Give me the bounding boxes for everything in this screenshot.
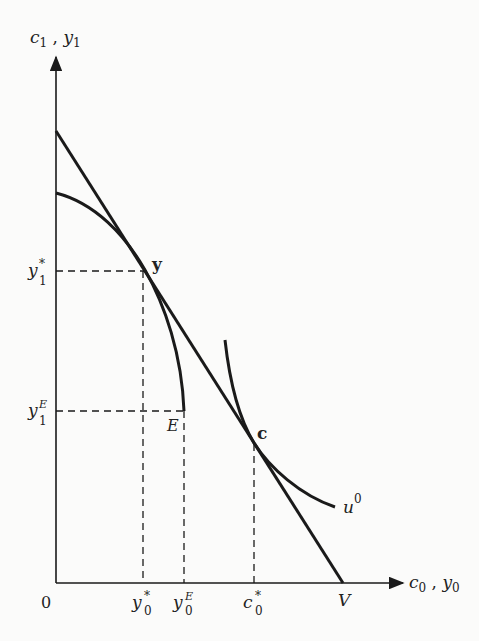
svg-text:E: E [184, 590, 193, 603]
svg-text:*: * [39, 257, 45, 271]
x-tick-c0-star: c * 0 [243, 589, 263, 618]
svg-text:1: 1 [39, 274, 47, 288]
svg-text:y: y [172, 592, 183, 612]
x-axis-label: c0 , y0 [409, 572, 460, 595]
x-tick-y0-star: y * 0 [131, 589, 152, 618]
svg-text:y: y [131, 592, 142, 612]
origin-label: 0 [41, 593, 51, 612]
svg-text:0: 0 [255, 604, 263, 618]
point-y-label: y [151, 254, 163, 274]
svg-text:u: u [343, 497, 354, 517]
point-E-label: E [166, 416, 179, 435]
svg-text:y: y [27, 260, 38, 280]
point-c-label: c [257, 423, 267, 443]
fisher-separation-diagram: c1 , y1 c0 , y0 0 y * 1 y E 1 y * 0 y E … [0, 0, 479, 641]
svg-text:1: 1 [39, 414, 47, 428]
svg-text:E: E [38, 398, 47, 411]
svg-text:c: c [243, 592, 253, 612]
x-tick-V: V [338, 590, 352, 610]
svg-text:V: V [338, 590, 352, 610]
svg-text:*: * [144, 589, 150, 603]
indifference-curve-label: u 0 [343, 492, 362, 517]
svg-text:0: 0 [354, 492, 362, 506]
y-tick-y1-E: y E 1 [27, 398, 47, 428]
y-tick-y1-star: y * 1 [27, 257, 47, 288]
svg-text:*: * [255, 589, 261, 603]
svg-text:0: 0 [185, 604, 193, 618]
y-axis-label: c1 , y1 [30, 27, 81, 50]
x-tick-y0-E: y E 0 [172, 590, 193, 618]
svg-text:y: y [27, 400, 38, 420]
market-line [56, 131, 343, 583]
svg-text:0: 0 [144, 604, 152, 618]
